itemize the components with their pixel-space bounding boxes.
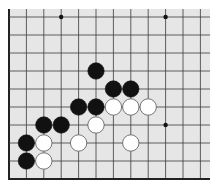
black-stone <box>88 99 104 115</box>
white-stone <box>36 135 52 151</box>
white-stone <box>123 99 139 115</box>
go-board[interactable] <box>0 0 218 185</box>
star-point-icon <box>163 123 167 127</box>
star-point-icon <box>59 15 63 19</box>
white-stone <box>36 153 52 169</box>
white-stone <box>88 117 104 133</box>
white-stone <box>105 99 121 115</box>
black-stone <box>36 117 52 133</box>
black-stone <box>105 81 121 97</box>
white-stone <box>123 135 139 151</box>
black-stone <box>53 117 69 133</box>
black-stone <box>88 63 104 79</box>
black-stone <box>123 81 139 97</box>
white-stone <box>140 99 156 115</box>
white-stone <box>70 135 86 151</box>
black-stone <box>18 135 34 151</box>
star-point-icon <box>163 15 167 19</box>
black-stone <box>70 99 86 115</box>
black-stone <box>18 153 34 169</box>
